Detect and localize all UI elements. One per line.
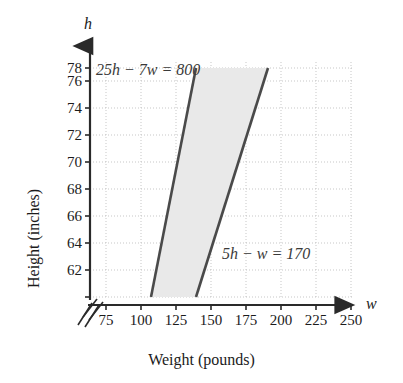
x-tick-label-150: 150 [193,313,229,328]
y-axis-variable-h: h [84,16,92,32]
y-tick-label-76: 76 [56,74,82,89]
y-tick-label-72: 72 [56,128,82,143]
x-tick-label-100: 100 [123,313,159,328]
equation-label-upper: 25h − 7w = 800 [96,62,200,78]
y-tick-label-66: 66 [56,209,82,224]
x-axis-title: Weight (pounds) [0,352,403,368]
x-tick-label-225: 225 [298,313,334,328]
y-tick-label-64: 64 [56,236,82,251]
shaded-region [151,68,268,297]
y-tick-label-70: 70 [56,155,82,170]
y-tick-label-68: 68 [56,182,82,197]
x-tick-label-175: 175 [228,313,264,328]
x-tick-label-250: 250 [333,313,369,328]
x-tick-label-75: 75 [92,313,120,328]
x-tick-label-125: 125 [158,313,194,328]
x-tick-label-200: 200 [263,313,299,328]
equation-label-lower: 5h − w = 170 [222,246,310,262]
y-axis-title: Height (inches) [26,189,42,288]
y-tick-label-62: 62 [56,263,82,278]
graph-figure: 78 76 74 72 70 68 66 64 62 75 100 125 15… [0,0,403,383]
y-tick-label-74: 74 [56,101,82,116]
x-axis-variable-w: w [366,296,377,312]
